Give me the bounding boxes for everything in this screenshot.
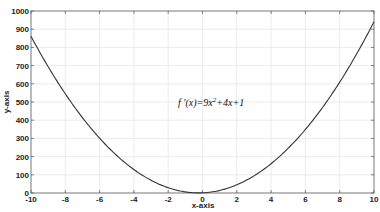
y-axis-label: y-axis — [2, 90, 11, 113]
function-annotation: f '(x)=9x2+4x+1 — [178, 96, 244, 109]
x-tick-label: 4 — [269, 195, 274, 204]
x-tick-label: 2 — [235, 195, 240, 204]
x-tick-label: -8 — [62, 195, 70, 204]
y-tick-label: 700 — [16, 62, 30, 71]
x-tick-label: 10 — [370, 195, 379, 204]
line-chart: 01002003004005006007008009001000 -10-8-6… — [0, 0, 380, 212]
x-tick-label: -4 — [130, 195, 138, 204]
y-tick-label: 600 — [16, 80, 30, 89]
x-tick-label: -2 — [165, 195, 173, 204]
y-tick-label: 100 — [16, 171, 30, 180]
y-tick-label: 300 — [16, 134, 30, 143]
x-axis-label: x-axis — [192, 201, 215, 210]
y-tick-label: 800 — [16, 43, 30, 52]
y-tick-label: 500 — [16, 98, 30, 107]
y-tick-label: 200 — [16, 153, 30, 162]
x-tick-label: -6 — [96, 195, 104, 204]
y-tick-label: 400 — [16, 116, 30, 125]
y-tick-label: 1000 — [11, 7, 29, 16]
x-tick-label: 8 — [337, 195, 342, 204]
x-tick-label: 6 — [303, 195, 308, 204]
y-tick-label: 900 — [16, 25, 30, 34]
x-tick-label: -10 — [25, 195, 37, 204]
